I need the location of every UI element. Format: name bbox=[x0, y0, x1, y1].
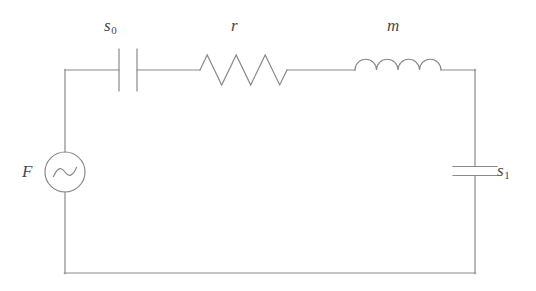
inductor-m-coils bbox=[355, 59, 441, 70]
resistor-r-label: r bbox=[231, 17, 238, 34]
inductor-m-label: m bbox=[387, 17, 399, 34]
circuit-schematic-canvas bbox=[0, 0, 536, 291]
ac-source-sine-icon bbox=[54, 168, 77, 177]
ac-source-label: F bbox=[22, 163, 32, 180]
wire-group bbox=[45, 49, 497, 274]
circuit-diagram: s0 r m s1 F bbox=[0, 0, 536, 291]
resistor-r-zigzag bbox=[200, 55, 287, 85]
capacitor-s0-label: s0 bbox=[104, 17, 117, 36]
capacitor-s1-label: s1 bbox=[497, 162, 510, 181]
